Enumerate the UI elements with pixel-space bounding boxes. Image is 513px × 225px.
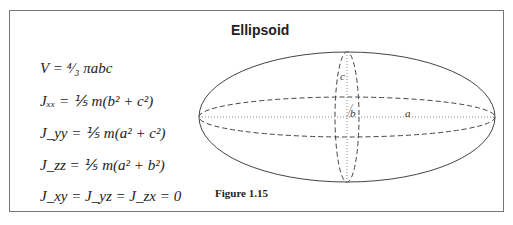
label-a: a [405, 107, 411, 119]
label-c: c [340, 70, 345, 82]
figure-caption: Figure 1.15 [215, 187, 268, 199]
label-b: b [350, 107, 356, 119]
